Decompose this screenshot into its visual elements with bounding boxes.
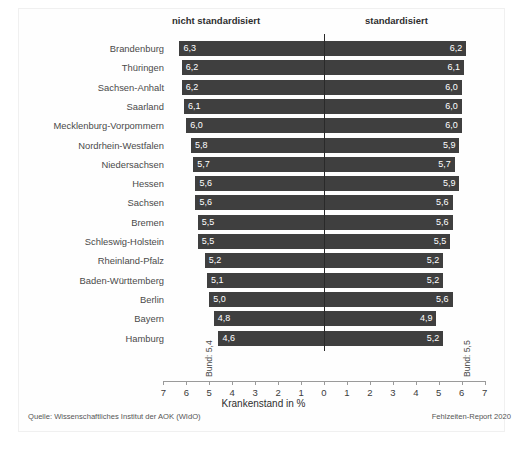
bar-value-right: 5,5 bbox=[406, 234, 446, 249]
axis-tick-label: 3 bbox=[245, 387, 265, 398]
category-label: Bayern bbox=[4, 309, 164, 328]
bar-value-left: 5,8 bbox=[195, 138, 208, 153]
axis-tick-label: 4 bbox=[222, 387, 242, 398]
axis-tick bbox=[324, 381, 325, 385]
bar-value-left: 6,3 bbox=[183, 41, 196, 56]
bund-label-left: Bund: 5,4 bbox=[204, 340, 214, 377]
axis-tick bbox=[232, 381, 233, 385]
axis-tick bbox=[393, 381, 394, 385]
table-row: Niedersachsen5,75,7 bbox=[0, 155, 523, 174]
bar-value-right: 4,9 bbox=[392, 311, 432, 326]
table-row: Hessen5,65,9 bbox=[0, 174, 523, 193]
axis-tick bbox=[370, 381, 371, 385]
bar-value-left: 5,7 bbox=[197, 157, 210, 172]
axis-tick bbox=[163, 381, 164, 385]
table-row: Hamburg4,65,2 bbox=[0, 329, 523, 348]
column-header-standardisiert: standardisiert bbox=[365, 15, 428, 26]
bar-value-right: 6,2 bbox=[422, 41, 462, 56]
category-label: Thüringen bbox=[4, 58, 164, 77]
bar-value-right: 6,0 bbox=[418, 99, 458, 114]
category-label: Berlin bbox=[4, 290, 164, 309]
bar-value-right: 5,2 bbox=[399, 331, 439, 346]
bar-value-right: 6,1 bbox=[420, 60, 460, 75]
category-label: Sachsen-Anhalt bbox=[4, 78, 164, 97]
table-row: Saarland6,16,0 bbox=[0, 97, 523, 116]
bar-value-left: 5,6 bbox=[199, 195, 212, 210]
table-row: Nordrhein-Westfalen5,85,9 bbox=[0, 136, 523, 155]
bar-value-right: 5,6 bbox=[409, 195, 449, 210]
category-label: Hamburg bbox=[4, 329, 164, 348]
bar-value-left: 5,5 bbox=[202, 234, 215, 249]
report-note: Fehlzeiten-Report 2020 bbox=[432, 412, 511, 421]
column-header-nicht-standardisiert: nicht standardisiert bbox=[172, 15, 260, 26]
bar-value-left: 6,0 bbox=[190, 118, 203, 133]
bar-value-left: 5,2 bbox=[209, 253, 222, 268]
axis-tick bbox=[416, 381, 417, 385]
category-label: Nordrhein-Westfalen bbox=[4, 136, 164, 155]
table-row: Mecklenburg-Vorpommern6,06,0 bbox=[0, 116, 523, 135]
axis-tick-label: 0 bbox=[314, 387, 334, 398]
axis-tick-label: 1 bbox=[337, 387, 357, 398]
bund-label-right: Bund: 5,5 bbox=[462, 340, 472, 377]
axis-tick bbox=[301, 381, 302, 385]
x-axis-title-text: Krankenstand in % bbox=[222, 398, 306, 409]
axis-tick-label: 7 bbox=[153, 387, 173, 398]
category-label: Baden-Württemberg bbox=[4, 271, 164, 290]
axis-tick bbox=[485, 381, 486, 385]
category-label: Bremen bbox=[4, 213, 164, 232]
table-row: Rheinland-Pfalz5,25,2 bbox=[0, 251, 523, 270]
bar-value-left: 6,2 bbox=[186, 60, 199, 75]
axis-tick-label: 1 bbox=[291, 387, 311, 398]
bar-value-left: 5,5 bbox=[202, 215, 215, 230]
axis-tick bbox=[462, 381, 463, 385]
bar-value-left: 5,0 bbox=[213, 292, 226, 307]
category-label: Sachsen bbox=[4, 193, 164, 212]
category-label: Brandenburg bbox=[4, 39, 164, 58]
bar-value-right: 5,6 bbox=[409, 215, 449, 230]
zero-axis-line bbox=[324, 34, 325, 351]
category-label: Saarland bbox=[4, 97, 164, 116]
table-row: Bayern4,84,9 bbox=[0, 309, 523, 328]
category-label: Mecklenburg-Vorpommern bbox=[4, 116, 164, 135]
bar-value-left: 5,6 bbox=[199, 176, 212, 191]
axis-tick-label: 4 bbox=[406, 387, 426, 398]
bar-value-right: 5,2 bbox=[399, 273, 439, 288]
chart-plot-area: nicht standardisiert standardisiert Bran… bbox=[0, 0, 523, 449]
axis-tick-label: 6 bbox=[452, 387, 472, 398]
axis-tick-label: 5 bbox=[429, 387, 449, 398]
axis-tick-label: 2 bbox=[268, 387, 288, 398]
bar-value-left: 4,6 bbox=[222, 331, 235, 346]
axis-tick bbox=[186, 381, 187, 385]
bar-value-right: 6,0 bbox=[418, 118, 458, 133]
bar-value-right: 5,9 bbox=[415, 138, 455, 153]
table-row: Schleswig-Holstein5,55,5 bbox=[0, 232, 523, 251]
axis-tick-label: 5 bbox=[199, 387, 219, 398]
bar-value-left: 4,8 bbox=[218, 311, 231, 326]
axis-tick bbox=[278, 381, 279, 385]
category-label: Hessen bbox=[4, 174, 164, 193]
axis-tick bbox=[347, 381, 348, 385]
axis-tick bbox=[209, 381, 210, 385]
bar-value-left: 5,1 bbox=[211, 273, 224, 288]
category-label: Schleswig-Holstein bbox=[4, 232, 164, 251]
category-label: Rheinland-Pfalz bbox=[4, 251, 164, 270]
axis-tick-label: 6 bbox=[176, 387, 196, 398]
bar-value-right: 6,0 bbox=[418, 80, 458, 95]
axis-tick-label: 7 bbox=[475, 387, 495, 398]
axis-tick-label: 3 bbox=[383, 387, 403, 398]
category-label: Niedersachsen bbox=[4, 155, 164, 174]
axis-tick bbox=[439, 381, 440, 385]
table-row: Brandenburg6,36,2 bbox=[0, 39, 523, 58]
bar-value-right: 5,9 bbox=[415, 176, 455, 191]
table-row: Sachsen5,65,6 bbox=[0, 193, 523, 212]
x-axis-title: Krankenstand in % bbox=[0, 398, 523, 409]
axis-tick-label: 2 bbox=[360, 387, 380, 398]
bar-value-right: 5,7 bbox=[411, 157, 451, 172]
table-row: Baden-Württemberg5,15,2 bbox=[0, 271, 523, 290]
bar-value-left: 6,2 bbox=[186, 80, 199, 95]
table-row: Thüringen6,26,1 bbox=[0, 58, 523, 77]
table-row: Sachsen-Anhalt6,26,0 bbox=[0, 78, 523, 97]
bar-value-left: 6,1 bbox=[188, 99, 201, 114]
table-row: Berlin5,05,6 bbox=[0, 290, 523, 309]
bar-value-right: 5,6 bbox=[409, 292, 449, 307]
